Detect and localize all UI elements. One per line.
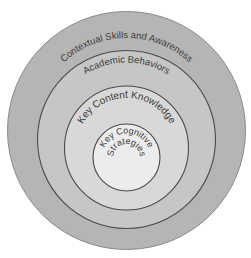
concentric-circles-diagram: Contextual Skills and Awareness Academic… <box>0 0 251 258</box>
